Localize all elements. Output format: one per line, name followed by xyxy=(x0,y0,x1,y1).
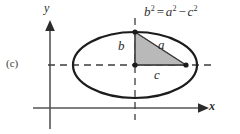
figure-canvas xyxy=(0,0,240,134)
axes-group xyxy=(33,20,209,129)
triangle-label-a: a xyxy=(158,38,165,51)
panel-label: (c) xyxy=(6,58,18,69)
triangle-label-b: b xyxy=(118,39,125,52)
equation-lhs-base: b xyxy=(144,4,151,19)
equation-minus-sign: − xyxy=(177,4,188,19)
center-point xyxy=(132,62,137,67)
equation-equals-sign: = xyxy=(155,4,166,19)
triangle-label-c: c xyxy=(154,68,160,81)
equation-rhs2-exponent: 2 xyxy=(194,4,198,13)
equation-annotation: b2=a2−c2 xyxy=(144,5,198,18)
figure-container: (c) y x b2=a2−c2 b a c xyxy=(0,0,240,134)
ellipse-top-point xyxy=(132,29,137,34)
x-axis-arrowhead xyxy=(198,103,209,113)
x-axis-label: x xyxy=(209,100,215,112)
y-axis-arrowhead xyxy=(45,20,55,31)
right-focus-point xyxy=(183,62,188,67)
y-axis-label: y xyxy=(44,2,49,14)
equation-rhs1-base: a xyxy=(166,4,173,19)
